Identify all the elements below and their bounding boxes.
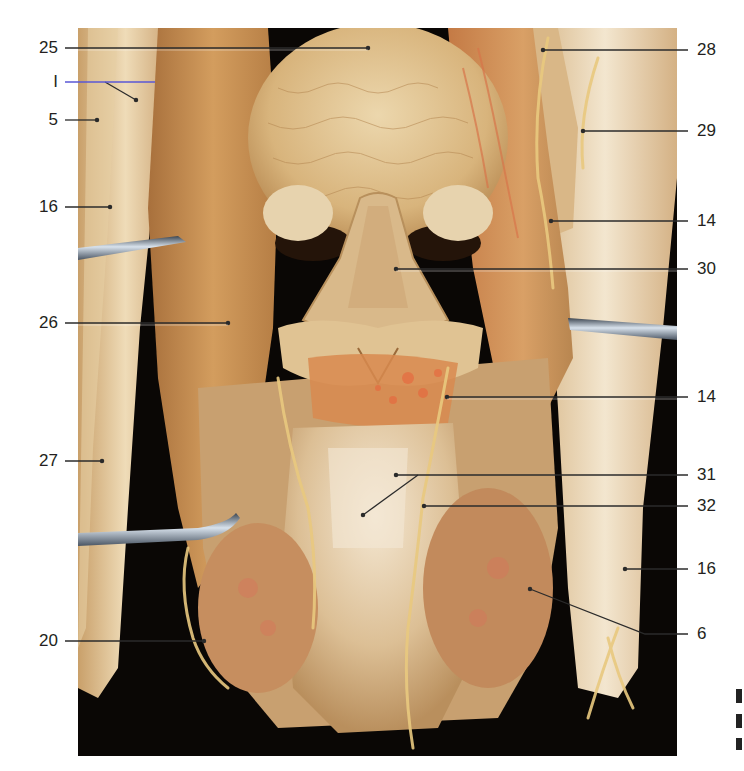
cropped-text-mark (736, 714, 742, 728)
label-26: 26 (24, 314, 58, 332)
label-5: 5 (24, 111, 58, 129)
label-14-upper: 14 (697, 212, 716, 230)
label-20: 20 (24, 632, 58, 650)
label-31: 31 (697, 466, 716, 484)
anatomical-photograph (78, 28, 677, 756)
label-29: 29 (697, 122, 716, 140)
label-6: 6 (697, 625, 706, 643)
label-30: 30 (697, 260, 716, 278)
label-25: 25 (24, 39, 58, 57)
label-1: I (24, 73, 58, 91)
label-16-left: 16 (24, 198, 58, 216)
label-16-right: 16 (697, 560, 716, 578)
cropped-text-mark (736, 689, 742, 703)
label-27: 27 (24, 452, 58, 470)
label-32: 32 (697, 497, 716, 515)
cropped-text-mark (736, 738, 742, 750)
label-28: 28 (697, 41, 716, 59)
label-14-lower: 14 (697, 388, 716, 406)
